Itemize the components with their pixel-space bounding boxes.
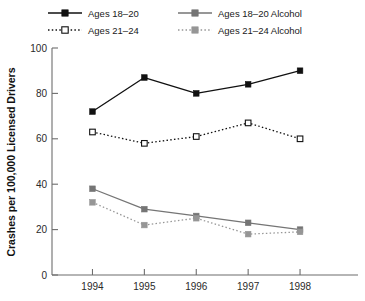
data-point-marker: [193, 215, 199, 221]
data-point-marker: [90, 200, 96, 206]
line-chart: Ages 18–20Ages 18–20 AlcoholAges 21–24Ag…: [0, 0, 365, 301]
legend-label: Ages 21–24: [88, 25, 139, 36]
legend-label: Ages 18–20 Alcohol: [218, 8, 302, 19]
y-tick-label: 40: [36, 179, 48, 190]
x-tick-label: 1994: [81, 281, 104, 292]
y-tick-label: 80: [36, 88, 48, 99]
y-axis-title: Crashes per 100,000 Licensed Drivers: [5, 67, 17, 256]
legend-label: Ages 21–24 Alcohol: [218, 25, 302, 36]
data-point-marker: [142, 222, 148, 228]
data-point-marker: [90, 109, 96, 115]
data-point-marker: [192, 10, 198, 16]
data-point-marker: [245, 82, 251, 88]
y-tick-label: 100: [30, 43, 47, 54]
data-point-marker: [193, 91, 199, 97]
data-point-marker: [142, 206, 148, 212]
x-tick-label: 1995: [133, 281, 156, 292]
data-point-marker: [90, 186, 96, 192]
data-point-marker: [193, 134, 199, 140]
data-point-marker: [192, 27, 198, 33]
y-tick-label: 20: [36, 224, 48, 235]
y-tick-label: 0: [41, 270, 47, 281]
data-point-marker: [142, 141, 148, 147]
data-point-marker: [297, 68, 303, 74]
data-point-marker: [297, 136, 303, 142]
data-point-marker: [245, 231, 251, 237]
x-tick-label: 1996: [185, 281, 208, 292]
data-point-marker: [245, 120, 251, 126]
x-tick-label: 1997: [237, 281, 260, 292]
data-point-marker: [62, 27, 68, 33]
chart-figure: Ages 18–20Ages 18–20 AlcoholAges 21–24Ag…: [0, 0, 365, 301]
data-point-marker: [62, 10, 68, 16]
data-point-marker: [90, 129, 96, 135]
legend-label: Ages 18–20: [88, 8, 139, 19]
y-tick-label: 60: [36, 133, 48, 144]
data-point-marker: [297, 229, 303, 235]
data-point-marker: [245, 220, 251, 226]
chart-background: [0, 0, 365, 301]
data-point-marker: [142, 75, 148, 81]
x-tick-label: 1998: [289, 281, 312, 292]
